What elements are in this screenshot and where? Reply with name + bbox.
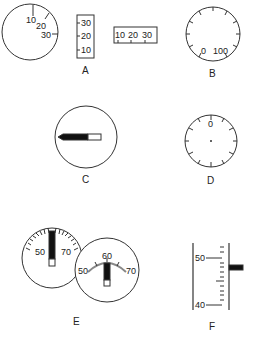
panel-f: 50 40 F bbox=[193, 243, 243, 332]
horizontal-scale-a-tick-30: 30 bbox=[142, 30, 152, 40]
right-dial-e-tick-50: 50 bbox=[78, 266, 88, 276]
dial-diagram: 10 20 30 30 20 10 10 20 30 A bbox=[0, 0, 254, 338]
dial-d-tick-0: 0 bbox=[208, 119, 213, 129]
panel-label-a: A bbox=[82, 65, 89, 76]
panel-d: 0 D bbox=[185, 115, 237, 186]
round-dial-a-tick-10: 10 bbox=[26, 15, 36, 25]
scale-f-tick-50: 50 bbox=[195, 253, 205, 263]
panel-label-e: E bbox=[73, 316, 80, 327]
dial-b-tick-0: 0 bbox=[201, 46, 206, 56]
right-dial-e-tick-70: 70 bbox=[126, 266, 136, 276]
horizontal-scale-a-tick-20: 20 bbox=[128, 30, 138, 40]
pointer-f bbox=[229, 265, 243, 270]
panel-label-b: B bbox=[209, 68, 216, 79]
panel-a: 10 20 30 30 20 10 10 20 30 A bbox=[2, 4, 157, 76]
panel-label-c: C bbox=[82, 174, 89, 185]
left-dial-e-tick-70: 70 bbox=[61, 247, 71, 257]
left-dial-e-tick-50: 50 bbox=[35, 247, 45, 257]
panel-e: 50 70 60 50 70 E bbox=[22, 228, 139, 327]
dial-b-tick-100: 100 bbox=[213, 46, 228, 56]
vertical-scale-a-tick-30: 30 bbox=[81, 18, 91, 28]
right-dial-e: 60 50 70 bbox=[75, 238, 139, 302]
panel-label-f: F bbox=[209, 321, 215, 332]
pointer-c bbox=[58, 134, 101, 140]
left-dial-e: 50 70 bbox=[22, 228, 82, 288]
vertical-scale-a-tick-10: 10 bbox=[81, 45, 91, 55]
vertical-scale-a-tick-20: 20 bbox=[81, 31, 91, 41]
round-dial-a-tick-30: 30 bbox=[41, 30, 51, 40]
right-dial-e-tick-60: 60 bbox=[102, 251, 112, 261]
panel-c: C bbox=[55, 106, 117, 185]
scale-f-tick-40: 40 bbox=[195, 300, 205, 310]
panel-b: 0 100 B bbox=[186, 7, 240, 79]
horizontal-scale-a-tick-10: 10 bbox=[115, 30, 125, 40]
panel-label-d: D bbox=[207, 175, 214, 186]
